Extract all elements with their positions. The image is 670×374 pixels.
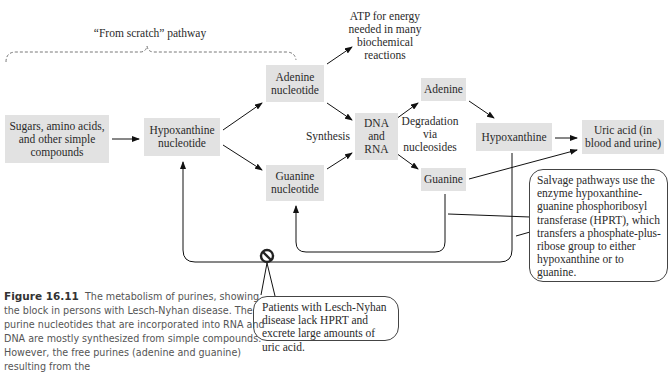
lesch-nyhan-callout: Patients with Lesch-Nyhan disease lack H… — [253, 296, 399, 341]
node-hypoxanthine: Hypoxanthine — [476, 123, 552, 151]
node-uric-acid: Uric acid (in blood and urine) — [582, 120, 664, 154]
atp-label: ATP for energy needed in many biochemica… — [345, 10, 425, 62]
figure-number: Figure 16.11 — [4, 290, 79, 302]
from-scratch-bracket — [6, 46, 296, 62]
degradation-label: Degradation via nucleosides — [398, 115, 462, 154]
from-scratch-label: “From scratch” pathway — [85, 27, 215, 40]
synthesis-label: Synthesis — [303, 130, 353, 143]
node-guanine-nucleotide: Guanine nucleotide — [266, 165, 324, 201]
node-adenine: Adenine — [421, 78, 466, 101]
figure-caption: Figure 16.11The metabolism of purines, s… — [4, 289, 266, 374]
salvage-callout: Salvage pathways use the enzyme hypoxant… — [529, 169, 668, 282]
node-adenine-nucleotide: Adenine nucleotide — [266, 65, 324, 102]
node-guanine: Guanine — [421, 168, 466, 191]
node-simple-compounds: Sugars, amino acids, and other simple co… — [5, 115, 109, 163]
no-entry-icon — [261, 250, 273, 262]
node-hypoxanthine-nucleotide: Hypoxanthine nucleotide — [144, 118, 220, 156]
node-dna-rna: DNA and RNA — [355, 113, 398, 160]
caption-text: The metabolism of purines, showing the b… — [4, 291, 265, 372]
